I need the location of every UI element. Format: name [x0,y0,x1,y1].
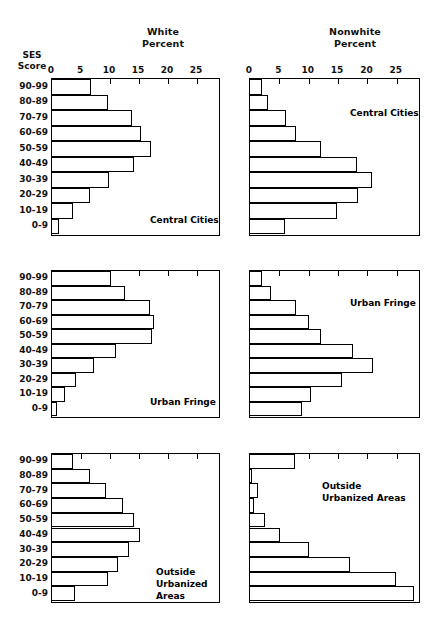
x-axis-tick [338,454,339,459]
ses-category-label: 0-9 [32,403,48,413]
bar [250,344,353,359]
panel-annotation: Urban Fringe [150,396,216,408]
chart-panel: Urban Fringe [51,270,220,418]
bar [250,271,262,286]
ses-category-label: 70-79 [19,301,48,311]
bar [250,454,295,469]
ses-category-label: 90-99 [19,455,48,465]
bar [250,373,342,388]
x-axis-tick [367,79,368,84]
ses-percent-distribution-figure: White Percent Nonwhite Percent SES Score… [0,0,443,634]
x-axis-tick-label: 0 [40,65,62,75]
ses-category-label: 0-9 [32,220,48,230]
x-axis-tick [279,79,280,84]
bar [52,557,118,572]
bar [250,315,309,330]
bar [250,188,358,204]
plot-area: Central Cities [249,78,420,236]
bar [52,469,90,484]
bar [52,157,134,173]
x-axis-tick [309,454,310,459]
bar [250,172,372,188]
bar [52,141,151,157]
bar [52,110,132,126]
x-axis-tick [338,271,339,276]
chart-panel: Urban Fringe [249,270,420,418]
ses-category-label: 0-9 [32,588,48,598]
ses-category-label: 80-89 [19,470,48,480]
x-axis-tick [168,271,169,276]
ses-category-label: 90-99 [19,272,48,282]
x-axis-tick [139,454,140,459]
ses-category-label: 40-49 [19,158,48,168]
x-axis-tick [139,271,140,276]
ses-category-label: 70-79 [19,112,48,122]
bar [52,315,154,330]
bar [250,157,357,173]
x-axis-tick-label: 25 [185,65,207,75]
x-axis-tick [397,454,398,459]
x-axis-tick [367,454,368,459]
panel-annotation: Outside Urbanized Areas [322,480,406,504]
bar [52,79,91,95]
plot-area: Urban Fringe [249,270,420,418]
ses-category-label: 40-49 [19,345,48,355]
panel-annotation: Urban Fringe [350,297,416,309]
bar [250,498,254,513]
x-axis-tick-label: 15 [326,65,348,75]
bar [250,95,268,111]
ses-category-label: 10-19 [19,388,48,398]
bar [52,126,141,142]
bar [250,387,311,402]
bar [250,513,265,528]
bar [250,286,271,301]
panel-annotation: Central Cities [350,107,419,119]
ses-category-label: 50-59 [19,514,48,524]
bar [250,402,302,417]
x-axis-tick-label: 20 [355,65,377,75]
bar [250,141,321,157]
ses-category-label: 80-89 [19,287,48,297]
bar [52,219,59,235]
bar [52,498,123,513]
bar [52,373,76,388]
x-axis-tick [197,271,198,276]
plot-area: Outside Urbanized Areas [249,453,420,603]
ses-category-label: 20-29 [19,189,48,199]
ses-category-label: 10-19 [19,205,48,215]
ses-category-label: 60-69 [19,316,48,326]
bar [52,542,129,557]
chart-panel: Outside Urbanized Areas [249,453,420,603]
panel-annotation: Outside Urbanized Areas [156,566,208,602]
bar [250,542,309,557]
plot-area: Urban Fringe [51,270,220,418]
bar [250,110,286,126]
bar [52,483,106,498]
x-axis-tick-label: 5 [267,65,289,75]
x-axis-tick [110,79,111,84]
bar [52,300,150,315]
x-axis-tick [338,79,339,84]
ses-category-label: 10-19 [19,573,48,583]
ses-category-label: 30-39 [19,174,48,184]
ses-category-label: 60-69 [19,499,48,509]
x-axis-tick [168,454,169,459]
bar [52,358,94,373]
x-axis-tick [197,454,198,459]
x-axis-tick-label: 0 [238,65,260,75]
plot-area: Central Cities [51,78,220,236]
bar [250,528,280,543]
bar [250,572,396,587]
ses-category-label: 30-39 [19,544,48,554]
bar [250,586,414,601]
bar [52,271,111,286]
bar [250,300,296,315]
x-axis-tick [309,79,310,84]
bar [52,203,73,219]
x-axis-tick-label: 10 [98,65,120,75]
ses-category-label: 70-79 [19,485,48,495]
chart-panel: 0510152025Central Cities [249,78,420,236]
ses-category-label: 90-99 [19,81,48,91]
plot-area: Outside Urbanized Areas [51,453,220,603]
bar [52,402,57,417]
